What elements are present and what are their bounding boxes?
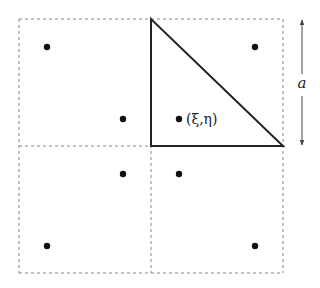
sample-point — [176, 116, 182, 122]
diagram-canvas: (ξ,η) a — [0, 0, 320, 288]
dimension-arrow-a: a — [298, 20, 307, 145]
sample-point — [120, 171, 126, 177]
point-label-xi-eta: (ξ,η) — [186, 111, 217, 127]
sample-point — [252, 44, 258, 50]
sample-point — [120, 116, 126, 122]
dimension-label-a: a — [298, 74, 307, 92]
sample-point — [44, 44, 50, 50]
sample-point — [44, 243, 50, 249]
sample-point — [176, 171, 182, 177]
sample-point — [252, 243, 258, 249]
